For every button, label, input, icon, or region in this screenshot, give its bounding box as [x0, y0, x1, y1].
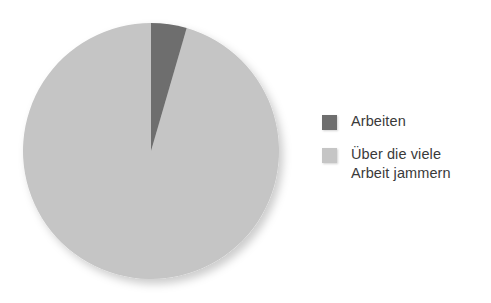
legend-label-arbeiten: Arbeiten: [351, 112, 406, 131]
legend-swatch-jammern: [322, 148, 337, 163]
legend-item-uber-die-viele-arbeit-jammern[interactable]: Über die viele Arbeit jammern: [322, 145, 487, 183]
legend-item-arbeiten[interactable]: Arbeiten: [322, 112, 487, 131]
pie-chart: Arbeiten Über die viele Arbeit jammern: [0, 0, 491, 303]
pie-slices-group: [23, 23, 279, 279]
pie-plot-area: [0, 0, 300, 303]
pie-svg: [0, 0, 300, 303]
legend-swatch-arbeiten: [322, 115, 337, 130]
legend-label-uber-die-viele-arbeit-jammern: Über die viele Arbeit jammern: [351, 145, 451, 183]
chart-legend: Arbeiten Über die viele Arbeit jammern: [322, 112, 487, 197]
